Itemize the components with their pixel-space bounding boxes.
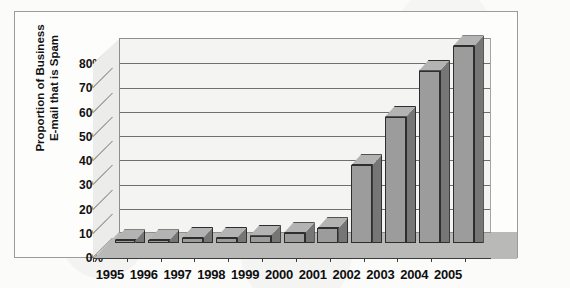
x-axis-label-2002: 2002 bbox=[330, 264, 364, 288]
bar-front-face bbox=[317, 228, 338, 243]
x-axis-tick-mark bbox=[397, 258, 398, 262]
x-axis-tick-mark bbox=[364, 258, 365, 262]
x-axis-label-2004: 2004 bbox=[397, 264, 431, 288]
x-axis-tick-mark bbox=[431, 258, 432, 262]
bars-layer bbox=[93, 12, 517, 259]
bar-side-face bbox=[474, 35, 484, 242]
x-axis-tick-mark bbox=[296, 258, 297, 262]
bar-front-face bbox=[148, 240, 169, 243]
x-axis-label-2000: 2000 bbox=[262, 264, 296, 288]
y-axis-title-line-1: Proportion of Business bbox=[33, 24, 47, 151]
x-axis-label-2005: 2005 bbox=[431, 264, 465, 288]
x-axis-label-2001: 2001 bbox=[296, 264, 330, 288]
x-axis-label-1998: 1998 bbox=[194, 264, 228, 288]
bar-front-face bbox=[284, 233, 305, 243]
bar-2004 bbox=[419, 60, 440, 243]
x-axis-tick-mark bbox=[262, 258, 263, 262]
bar-2005 bbox=[453, 35, 474, 242]
x-axis-label-1995: 1995 bbox=[93, 264, 127, 288]
x-axis-label-1996: 1996 bbox=[127, 264, 161, 288]
bar-2002 bbox=[351, 154, 372, 243]
bar-2000 bbox=[284, 222, 305, 243]
bar-front-face bbox=[216, 238, 237, 243]
chart-frame: Proportion of Business E-mail that is Sp… bbox=[14, 11, 518, 258]
bar-side-face bbox=[406, 106, 416, 243]
bar-front-face bbox=[250, 236, 271, 243]
x-axis-tick-mark bbox=[330, 258, 331, 262]
bar-front-face bbox=[453, 46, 474, 242]
page-canvas: Proportion of Business E-mail that is Sp… bbox=[0, 0, 570, 288]
bar-front-face bbox=[419, 71, 440, 243]
x-axis-tick-labels: 1995199619971998199920002001200220032004… bbox=[93, 264, 465, 288]
bar-front-face bbox=[115, 240, 136, 243]
x-axis-tick-mark bbox=[93, 258, 94, 262]
x-axis-tick-mark bbox=[194, 258, 195, 262]
plot-area bbox=[93, 12, 517, 259]
x-axis-tick-mark bbox=[161, 258, 162, 262]
x-axis-label-2003: 2003 bbox=[364, 264, 398, 288]
bar-1998 bbox=[216, 227, 237, 243]
x-axis-tick-mark bbox=[228, 258, 229, 262]
bar-2001 bbox=[317, 217, 338, 243]
bar-1997 bbox=[182, 227, 203, 243]
bar-1995 bbox=[115, 229, 136, 243]
bar-2003 bbox=[385, 106, 406, 243]
bar-1996 bbox=[148, 229, 169, 243]
bar-side-face bbox=[372, 154, 382, 243]
x-axis-tick-mark bbox=[465, 258, 466, 262]
bar-front-face bbox=[351, 165, 372, 243]
bar-front-face bbox=[385, 117, 406, 243]
x-axis-label-1997: 1997 bbox=[161, 264, 195, 288]
bar-side-face bbox=[440, 60, 450, 243]
x-axis-label-1999: 1999 bbox=[228, 264, 262, 288]
bar-front-face bbox=[182, 238, 203, 243]
bar-1999 bbox=[250, 225, 271, 243]
x-axis-tick-mark bbox=[127, 258, 128, 262]
